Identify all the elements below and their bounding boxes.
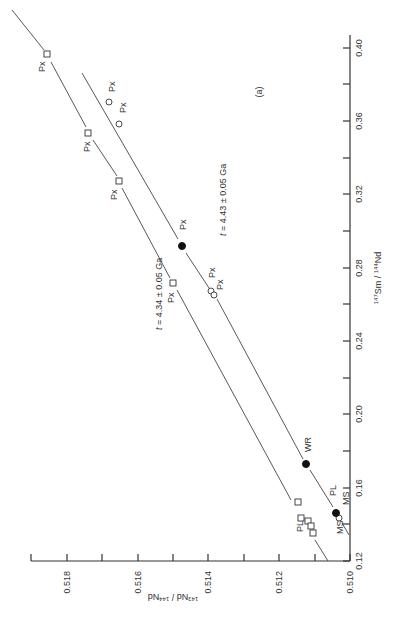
x-axis-title: 147Sm / 144Nd — [373, 252, 383, 305]
y-axis-ticks — [31, 554, 350, 561]
y-tick-label: 0.518 — [62, 571, 72, 594]
y-axis-title: 143Nd / 144Nd — [148, 592, 199, 602]
point-label-ms: MS — [341, 492, 351, 506]
isochron-label-4.34: t = 4.34 ± 0.05 Ga — [154, 258, 164, 330]
x-axis-ticks — [343, 48, 350, 561]
isochron-4.34 — [93, 140, 117, 176]
y-tick-label: 0.510 — [345, 571, 355, 594]
isochron-lines — [12, 10, 349, 561]
series-open-circles — [106, 99, 342, 521]
point-label-px: Px — [166, 292, 176, 303]
point-label-px: Px — [118, 102, 128, 113]
data-point-square — [308, 523, 314, 529]
point-label-px: Px — [107, 81, 117, 92]
data-point-circle — [211, 292, 217, 298]
data-point-square — [44, 51, 50, 57]
x-tick-label: 0.20 — [354, 405, 364, 423]
point-label-px: Px — [178, 219, 188, 230]
x-tick-label: 0.12 — [354, 552, 364, 570]
x-tick-label: 0.24 — [354, 332, 364, 350]
isochron-label-4.43: t = 4.43 ± 0.05 Ga — [218, 164, 228, 236]
x-tick-label: 0.28 — [354, 259, 364, 277]
isochron-4.34 — [315, 540, 328, 561]
data-point-square — [85, 130, 91, 136]
x-tick-label: 0.40 — [354, 39, 364, 57]
y-axis-tick-labels: 0.510 0.512 0.514 0.516 0.518 — [62, 571, 355, 594]
isochron-4.34 — [51, 62, 86, 127]
isochron-4.34 — [12, 10, 44, 50]
panel-label: (a) — [254, 86, 264, 97]
point-label-ms: MS — [335, 521, 345, 535]
data-point-filled — [303, 461, 310, 468]
data-point-filled — [333, 510, 340, 517]
point-label-wr: WR — [303, 437, 313, 452]
isochron-4.43 — [217, 299, 303, 459]
point-label-pl: PL — [295, 521, 305, 532]
isochron-4.43 — [186, 253, 209, 288]
point-label-px: Px — [109, 189, 119, 200]
data-point-square — [310, 530, 316, 536]
series-filled-circles — [179, 243, 340, 517]
x-axis-tick-labels: 0.12 0.16 0.20 0.24 0.28 0.32 0.36 0.40 — [354, 39, 364, 570]
point-label-px: Px — [82, 141, 92, 152]
point-label-px: Px — [215, 279, 225, 290]
x-tick-label: 0.32 — [354, 185, 364, 203]
isochron-4.43 — [82, 73, 178, 239]
point-label-pl: PL — [328, 485, 338, 496]
y-tick-label: 0.516 — [133, 571, 143, 594]
data-point-square — [116, 178, 122, 184]
data-point-filled — [179, 243, 186, 250]
x-tick-label: 0.36 — [354, 112, 364, 130]
y-tick-label: 0.512 — [274, 571, 284, 594]
point-label-px: Px — [37, 61, 47, 72]
data-point-circle — [106, 99, 112, 105]
data-point-square — [295, 499, 301, 505]
data-point-square — [298, 515, 304, 521]
series-open-squares — [44, 51, 316, 536]
isochron-4.34 — [177, 290, 291, 500]
point-label-px: Px — [207, 267, 217, 278]
x-tick-label: 0.16 — [354, 479, 364, 497]
y-tick-label: 0.514 — [203, 571, 213, 594]
data-point-circle — [116, 121, 122, 127]
isochron-chart: 0.12 0.16 0.20 0.24 0.28 0.32 0.36 0.40 … — [0, 0, 401, 634]
data-point-square — [170, 280, 176, 286]
